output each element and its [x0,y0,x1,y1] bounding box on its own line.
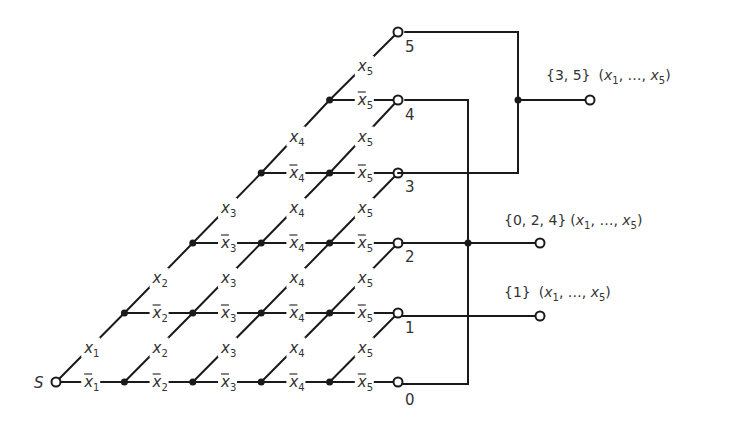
svg-text:{0, 2, 4}(x1, …, x5): {0, 2, 4}(x1, …, x5) [504,212,642,231]
junction-dot [326,379,333,386]
output-wiring [398,32,595,384]
terminal-label-2: 2 [405,248,415,266]
junction-dot [189,240,196,247]
terminal-node-4 [394,96,403,105]
junction-dot [189,310,196,317]
junction-dot [121,379,128,386]
terminal-node-0 [394,378,403,387]
svg-text:{3, 5}(x1, …, x5): {3, 5}(x1, …, x5) [546,67,671,86]
junction-dot [326,170,333,177]
terminal-label-1: 1 [405,319,415,337]
terminal-label-4: 4 [405,106,415,124]
output-terminal-1 [536,312,545,321]
junction-dot [121,310,128,317]
output-label-024: {0, 2, 4}(x1, …, x5) [504,212,642,231]
terminal-node-5 [394,28,403,37]
junction-dot [258,240,265,247]
junction-dot [189,379,196,386]
output-label-1: {1}(x1, …, x5) [504,284,611,303]
junction-dot [258,310,265,317]
junction-dot [326,97,333,104]
source-label: S [34,374,44,392]
contact-labels: x1x1x2x2x2x2x3x3x3x3x3x3x4x4x4x4x4x4x4x4… [81,56,374,393]
terminal-label-3: 3 [405,178,415,196]
source-node [52,378,61,387]
terminal-label-5: 5 [405,38,415,56]
terminal-label-0: 0 [405,391,415,409]
svg-text:{1}(x1, …, x5): {1}(x1, …, x5) [504,284,611,303]
output-terminal-35 [586,96,595,105]
junction-dot [258,170,265,177]
junction-dot [326,310,333,317]
symmetric-function-contact-network: x1x1x2x2x2x2x3x3x3x3x3x3x4x4x4x4x4x4x4x4… [0,0,733,428]
output-label-35: {3, 5}(x1, …, x5) [546,67,671,86]
output-terminal-024 [536,239,545,248]
junction-dot [258,379,265,386]
junction-dot [326,240,333,247]
